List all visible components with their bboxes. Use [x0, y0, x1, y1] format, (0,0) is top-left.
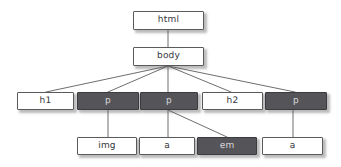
node-label-a2: a [290, 141, 296, 150]
node-a2[interactable]: a [262, 137, 323, 155]
node-label-p3: p [293, 96, 299, 105]
node-label-em: em [220, 141, 235, 150]
edge-body-to-p3 [168, 66, 295, 92]
node-label-h2: h2 [227, 96, 239, 105]
node-label-img: img [98, 141, 116, 150]
node-p3[interactable]: p [265, 92, 327, 110]
node-h2[interactable]: h2 [202, 92, 263, 110]
node-img[interactable]: img [77, 137, 137, 155]
node-html[interactable]: html [133, 11, 204, 30]
node-label-body: body [157, 52, 180, 61]
node-label-h1: h1 [40, 96, 52, 105]
node-label-html: html [158, 16, 179, 25]
edge-body-to-p1 [108, 66, 168, 92]
node-label-p2: p [166, 96, 172, 105]
node-p1[interactable]: p [77, 92, 139, 110]
edge-body-to-h2 [168, 66, 231, 92]
dom-tree-diagram: htmlbodyh1pph2pimgaema [0, 0, 341, 167]
node-label-p1: p [105, 96, 111, 105]
node-label-a1: a [164, 141, 170, 150]
node-h1[interactable]: h1 [17, 92, 74, 110]
node-body[interactable]: body [133, 47, 204, 66]
node-a1[interactable]: a [139, 137, 195, 155]
edge-body-to-h1 [46, 66, 168, 92]
edge-p2-to-em [168, 110, 227, 137]
node-p2[interactable]: p [140, 92, 198, 110]
node-em[interactable]: em [197, 137, 257, 155]
